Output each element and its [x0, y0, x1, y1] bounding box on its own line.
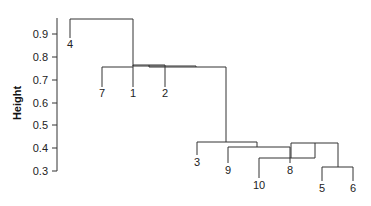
dendrogram-chart: 0.9 0.8 0.7 0.6 0.5 0.4 0.3 Height 4 7 1	[0, 0, 371, 206]
y-axis: 0.9 0.8 0.7 0.6 0.5 0.4 0.3 Height	[11, 18, 57, 177]
y-tick-label: 0.5	[33, 119, 48, 131]
leaf-label: 7	[99, 87, 105, 99]
y-tick-label: 0.3	[33, 165, 48, 177]
leaf-labels: 4 7 1 2 3 9 10 8 5 6	[67, 38, 356, 194]
y-tick-label: 0.6	[33, 97, 48, 109]
leaf-label: 8	[287, 164, 293, 176]
y-axis-label: Height	[11, 86, 23, 121]
leaf-label: 3	[194, 156, 200, 168]
leaf-label: 4	[67, 38, 73, 50]
leaf-label: 1	[130, 87, 136, 99]
y-tick-label: 0.4	[33, 142, 48, 154]
y-tick-label: 0.7	[33, 74, 48, 86]
leaf-label: 5	[319, 182, 325, 194]
y-tick-label: 0.8	[33, 51, 48, 63]
leaf-label: 10	[253, 179, 265, 191]
y-tick-label: 0.9	[33, 28, 48, 40]
leaf-label: 2	[162, 87, 168, 99]
dendrogram-plot: 0.9 0.8 0.7 0.6 0.5 0.4 0.3 Height 4 7 1	[0, 0, 371, 206]
dendrogram-branches	[70, 19, 353, 181]
leaf-label: 6	[350, 182, 356, 194]
leaf-label: 9	[225, 164, 231, 176]
